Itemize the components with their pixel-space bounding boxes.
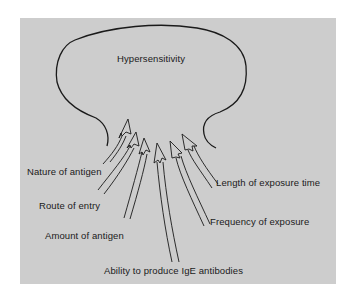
diagram-canvas <box>0 0 348 297</box>
arrow-ige-antibodies <box>154 143 179 262</box>
factor-label-ige-antibodies: Ability to produce IgE antibodies <box>104 265 243 276</box>
arrow-nature-of-antigen <box>103 119 131 164</box>
hypersensitivity-blob <box>56 25 246 148</box>
factor-label-length-of-exposure: Length of exposure time <box>216 177 320 188</box>
factor-label-amount-of-antigen: Amount of antigen <box>45 230 124 241</box>
center-node-label: Hypersensitivity <box>117 53 185 64</box>
factor-label-frequency-of-exposure: Frequency of exposure <box>210 216 309 227</box>
factor-label-route-of-entry: Route of entry <box>39 200 100 211</box>
arrow-length-of-exposure <box>182 134 218 188</box>
factor-label-nature-of-antigen: Nature of antigen <box>27 166 102 177</box>
